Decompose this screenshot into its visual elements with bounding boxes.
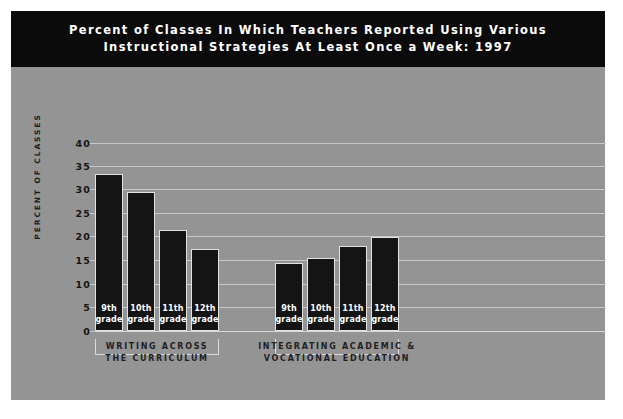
bar-label-line-2: grade: [127, 314, 154, 325]
bar-label-line-1: 12th: [194, 303, 215, 314]
y-axis-title: PERCENT OF CLASSES: [33, 107, 42, 247]
bar-writing-9th: 9th grade: [95, 174, 123, 331]
bar-label-line-2: grade: [95, 314, 122, 325]
gridline-30: [95, 189, 606, 190]
y-tick-label-0: 0: [57, 326, 91, 337]
bar-label-line-2: grade: [371, 314, 398, 325]
group-label-writing: WRITING ACROSS THE CURRICULUM: [85, 341, 229, 365]
gridline-25: [95, 213, 606, 214]
bar-label-line-2: grade: [307, 314, 334, 325]
chart-title-banner: Percent of Classes In Which Teachers Rep…: [11, 11, 605, 67]
bar-label-line-1: 12th: [374, 303, 395, 314]
y-tick-label-40: 40: [57, 138, 91, 149]
y-tick-label-5: 5: [57, 302, 91, 313]
bar-writing-10th: 10th grade: [127, 192, 155, 331]
group-label-line-2: VOCATIONAL EDUCATION: [251, 353, 423, 365]
gridline-0-baseline: [95, 331, 606, 332]
y-tick-label-25: 25: [57, 208, 91, 219]
gridline-40: [95, 143, 606, 144]
chart-figure: Percent of Classes In Which Teachers Rep…: [11, 11, 605, 400]
bar-label-line-1: 10th: [130, 303, 151, 314]
bar-label-line-2: grade: [339, 314, 366, 325]
bar-integrating-12th: 12th grade: [371, 237, 399, 331]
group-label-line-1: WRITING ACROSS: [85, 341, 229, 353]
group-label-line-1: INTEGRATING ACADEMIC &: [251, 341, 423, 353]
chart-title-line-1: Percent of Classes In Which Teachers Rep…: [69, 22, 547, 39]
bar-label-line-2: grade: [191, 314, 218, 325]
bar-writing-11th: 11th grade: [159, 230, 187, 331]
bar-label-line-1: 11th: [162, 303, 183, 314]
bar-label-line-1: 11th: [342, 303, 363, 314]
gridline-35: [95, 166, 606, 167]
chart-title-line-2: Instructional Strategies At Least Once a…: [103, 39, 512, 56]
bar-label-line-1: 9th: [101, 303, 117, 314]
y-tick-label-35: 35: [57, 161, 91, 172]
y-tick-label-30: 30: [57, 184, 91, 195]
bar-integrating-9th: 9th grade: [275, 263, 303, 331]
bar-integrating-10th: 10th grade: [307, 258, 335, 331]
group-label-integrating: INTEGRATING ACADEMIC & VOCATIONAL EDUCAT…: [251, 341, 423, 365]
plot-area: PERCENT OF CLASSES 40 35 30 25 20 15 10 …: [11, 67, 605, 400]
bar-label-line-1: 9th: [281, 303, 297, 314]
y-tick-label-20: 20: [57, 231, 91, 242]
bar-label-line-1: 10th: [310, 303, 331, 314]
bar-integrating-11th: 11th grade: [339, 246, 367, 331]
y-tick-label-15: 15: [57, 255, 91, 266]
group-label-line-2: THE CURRICULUM: [85, 353, 229, 365]
bar-label-line-2: grade: [159, 314, 186, 325]
bar-label-line-2: grade: [275, 314, 302, 325]
bar-writing-12th: 12th grade: [191, 249, 219, 331]
y-tick-label-10: 10: [57, 279, 91, 290]
